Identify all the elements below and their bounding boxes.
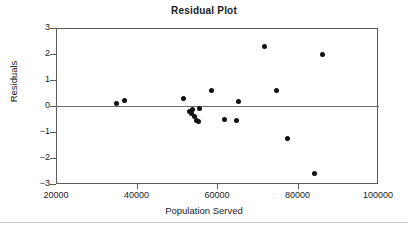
x-axis-tick-label: 60000 (187, 190, 247, 200)
x-axis-tick (137, 184, 138, 189)
y-axis-tick (50, 28, 56, 29)
x-axis-tick-label: 20000 (26, 190, 86, 200)
y-axis-tick (50, 106, 56, 107)
zero-reference-line (56, 106, 379, 107)
scatter-point (320, 52, 325, 57)
y-axis-tick-label: −2 (24, 153, 50, 162)
y-axis-tick (50, 132, 56, 133)
x-axis-title: Population Served (0, 205, 408, 216)
bottom-divider (0, 222, 408, 223)
y-axis-tick (50, 184, 56, 185)
scatter-point (285, 136, 290, 141)
y-axis-tick-label: −3 (24, 179, 50, 188)
scatter-point (262, 44, 267, 49)
scatter-point (274, 88, 279, 93)
x-axis-tick (298, 184, 299, 189)
x-axis-tick-label: 100000 (348, 190, 408, 200)
y-axis-tick-label: 3 (24, 23, 50, 32)
y-axis-tick (50, 54, 56, 55)
scatter-point (196, 119, 201, 124)
x-axis-tick-label: 40000 (107, 190, 167, 200)
y-axis-tick-label: 1 (24, 75, 50, 84)
chart-title: Residual Plot (0, 5, 408, 16)
x-axis-tick-label: 80000 (268, 190, 328, 200)
y-axis-tick-label: 0 (24, 101, 50, 110)
y-axis-tick (50, 158, 56, 159)
y-axis-tick-label: 2 (24, 49, 50, 58)
residual-plot-figure: Residual Plot 3210−1−2−3 200004000060000… (0, 0, 408, 229)
x-axis-tick (217, 184, 218, 189)
scatter-point (236, 99, 241, 104)
scatter-point (114, 101, 119, 106)
y-axis-tick-label: −1 (24, 127, 50, 136)
scatter-point (197, 106, 202, 111)
scatter-point (222, 117, 227, 122)
y-axis-title: Residuals (8, 47, 19, 117)
y-axis-tick (50, 80, 56, 81)
